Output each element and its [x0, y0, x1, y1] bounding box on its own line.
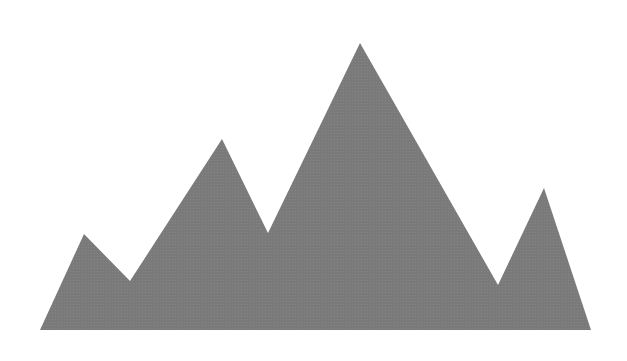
mountain-range-graphic	[0, 0, 627, 361]
image-canvas	[0, 0, 627, 361]
mountain-silhouette-icon	[40, 43, 591, 330]
